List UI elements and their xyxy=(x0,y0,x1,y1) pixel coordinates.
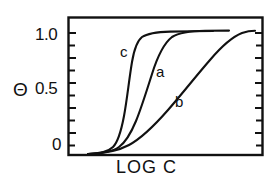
curve-annotation-c: c xyxy=(120,44,128,59)
curve-a xyxy=(88,31,229,154)
y-tick-label-0-5: 0.5 xyxy=(35,80,57,97)
x-axis-label: LOG C xyxy=(116,158,177,176)
y-tick-label-1-0: 1.0 xyxy=(35,26,57,43)
y-tick-label-0: 0 xyxy=(52,136,61,153)
sigmoid-binding-curve-figure: Θ 1.0 0.5 0 LOG C c a b xyxy=(0,0,277,189)
curve-b xyxy=(88,31,255,154)
curve-annotation-b: b xyxy=(175,94,183,109)
y-axis-symbol-theta: Θ xyxy=(13,80,28,99)
curve-c xyxy=(88,31,213,154)
curve-annotation-a: a xyxy=(156,64,164,79)
